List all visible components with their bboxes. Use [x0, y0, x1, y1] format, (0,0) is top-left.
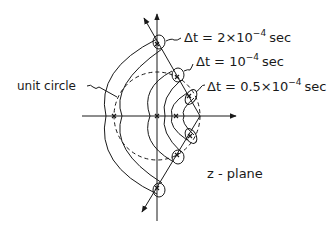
pole-circle-upper-1e-4	[172, 68, 184, 82]
leader-unit-circle	[87, 85, 117, 97]
label-unit-circle: unit circle	[17, 79, 76, 93]
label-dt-2e-4: Δt = 2×10−4sec	[184, 28, 291, 45]
leader-dt-1e-4	[184, 64, 193, 71]
radial-line-lower	[142, 116, 200, 212]
leader-dt-0.5e-4	[196, 85, 205, 92]
label-z-plane: z - plane	[207, 166, 263, 181]
leader-dt-2e-4	[166, 38, 181, 41]
pole-circle-lower-0.5e-4	[183, 127, 200, 146]
label-dt-1e-4: Δt = 10−4sec	[196, 52, 284, 69]
label-dt-0.5e-4: Δt = 0.5×10−4sec	[207, 77, 326, 94]
z-plane-diagram: Δt = 2×10−4sec Δt = 10−4sec Δt = 0.5×10−…	[0, 0, 335, 227]
